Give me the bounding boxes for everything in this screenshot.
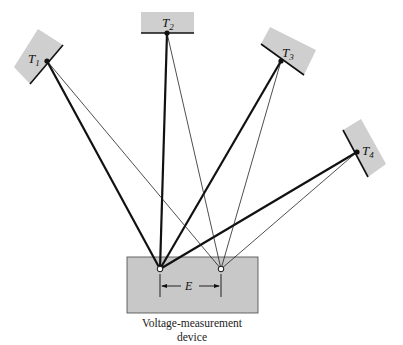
thick-wires — [47, 33, 357, 269]
thermocouple-plate-t4: T4 — [343, 119, 386, 177]
emf-label: E — [184, 279, 193, 293]
thermocouple-diagram: T1 T2 T3 T4 — [0, 0, 403, 345]
right-terminal — [218, 266, 224, 272]
left-terminal — [157, 266, 163, 272]
thermocouple-plate-t2: T2 — [141, 12, 194, 33]
device-caption-line2: device — [177, 331, 207, 343]
device-caption-line1: Voltage-measurement — [142, 317, 243, 330]
thin-wires — [47, 33, 357, 269]
thermocouple-plate-t3: T3 — [261, 27, 316, 75]
voltage-measurement-device — [127, 257, 258, 313]
